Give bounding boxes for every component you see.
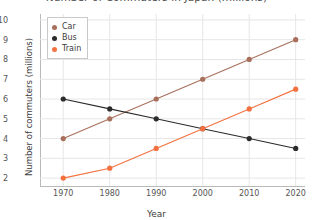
y-tick-label: 9 bbox=[0, 35, 8, 44]
y-tick-label: 6 bbox=[0, 95, 8, 104]
x-tick-label: 2020 bbox=[286, 189, 306, 198]
legend-item-car[interactable]: Car bbox=[52, 22, 81, 32]
data-point-bus bbox=[61, 96, 66, 101]
y-tick-label: 5 bbox=[0, 114, 8, 123]
legend-swatch-train-icon bbox=[52, 47, 57, 52]
chart-title: Number of Commuters in Japan (millions) bbox=[0, 0, 313, 3]
data-point-car bbox=[200, 77, 205, 82]
y-tick-label: 3 bbox=[0, 154, 8, 163]
data-point-bus bbox=[293, 146, 298, 151]
data-point-car bbox=[154, 96, 159, 101]
x-tick-label: 1990 bbox=[146, 189, 166, 198]
x-axis-spine bbox=[40, 186, 305, 187]
x-tick-label: 2000 bbox=[193, 189, 213, 198]
legend-label: Bus bbox=[62, 33, 77, 43]
data-point-train bbox=[247, 106, 252, 111]
data-point-train bbox=[107, 166, 112, 171]
data-point-bus bbox=[107, 106, 112, 111]
series-line-train bbox=[63, 89, 295, 178]
legend-item-bus[interactable]: Bus bbox=[52, 33, 81, 43]
data-point-bus bbox=[247, 136, 252, 141]
data-point-car bbox=[107, 116, 112, 121]
data-point-car bbox=[61, 136, 66, 141]
legend-label: Car bbox=[62, 22, 76, 32]
x-tick-label: 2010 bbox=[239, 189, 259, 198]
x-tick-label: 1980 bbox=[100, 189, 120, 198]
data-point-car bbox=[293, 37, 298, 42]
legend: CarBusTrain bbox=[47, 17, 88, 59]
data-point-bus bbox=[154, 116, 159, 121]
y-tick-label: 4 bbox=[0, 134, 8, 143]
data-point-train bbox=[61, 175, 66, 180]
data-point-train bbox=[200, 126, 205, 131]
y-tick-label: 2 bbox=[0, 174, 8, 183]
legend-item-train[interactable]: Train bbox=[52, 44, 81, 54]
y-tick-label: 7 bbox=[0, 75, 8, 84]
data-point-train bbox=[293, 87, 298, 92]
x-axis-label: Year bbox=[0, 209, 313, 219]
legend-label: Train bbox=[62, 44, 81, 54]
line-chart: Number of Commuters in Japan (millions) … bbox=[0, 0, 313, 220]
data-point-car bbox=[247, 57, 252, 62]
legend-swatch-car-icon bbox=[52, 25, 57, 30]
y-tick-label: 10 bbox=[0, 15, 8, 24]
y-axis-label: Number of commuters (millions) bbox=[24, 32, 34, 182]
legend-swatch-bus-icon bbox=[52, 36, 57, 41]
x-tick-label: 1970 bbox=[53, 189, 73, 198]
data-point-train bbox=[154, 146, 159, 151]
y-tick-label: 8 bbox=[0, 55, 8, 64]
